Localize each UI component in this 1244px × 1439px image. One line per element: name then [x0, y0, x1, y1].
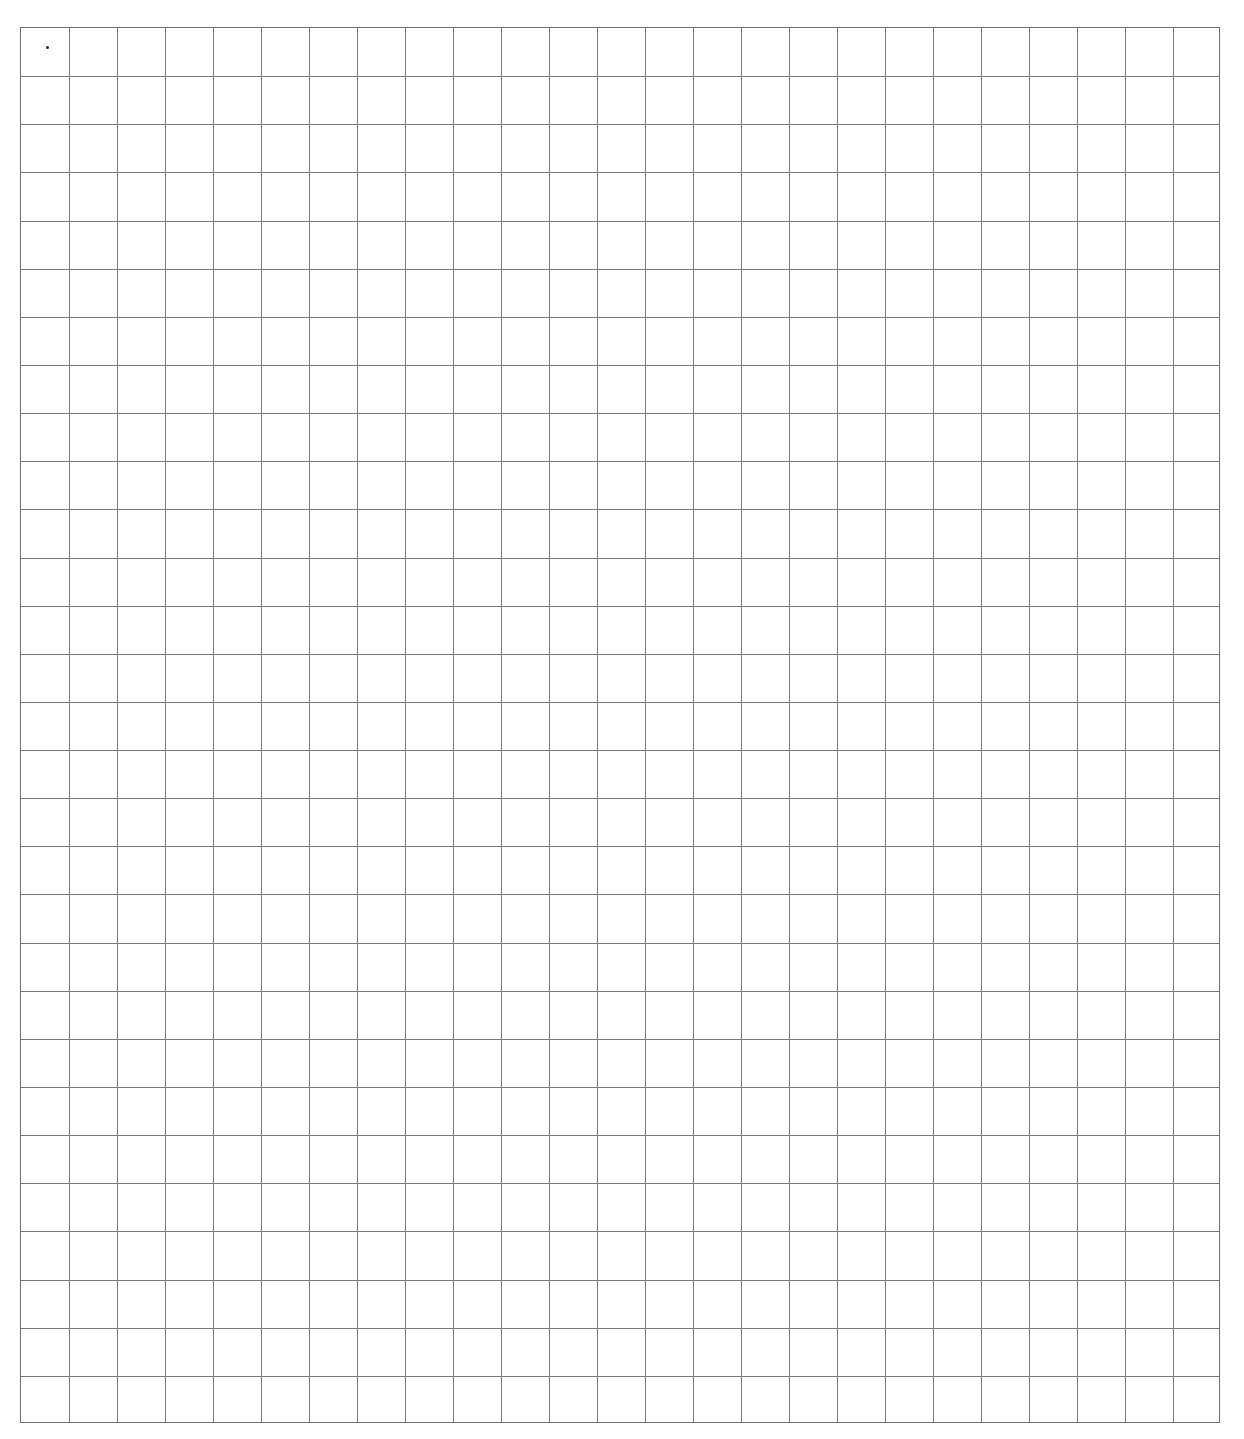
- grid-horizontal-line: [21, 221, 1219, 222]
- grid-vertical-line: [981, 28, 982, 1422]
- grid-vertical-line: [741, 28, 742, 1422]
- grid-horizontal-line: [21, 702, 1219, 703]
- grid-vertical-line: [837, 28, 838, 1422]
- grid-vertical-line: [165, 28, 166, 1422]
- grid-vertical-line: [1029, 28, 1030, 1422]
- grid-horizontal-line: [21, 1376, 1219, 1377]
- grid-horizontal-line: [21, 317, 1219, 318]
- grid-horizontal-line: [21, 606, 1219, 607]
- grid-vertical-line: [549, 28, 550, 1422]
- grid-paper: [20, 27, 1220, 1423]
- grid-vertical-line: [213, 28, 214, 1422]
- grid-vertical-line: [405, 28, 406, 1422]
- grid-vertical-line: [1125, 28, 1126, 1422]
- grid-horizontal-line: [21, 798, 1219, 799]
- grid-vertical-line: [117, 28, 118, 1422]
- grid-vertical-line: [645, 28, 646, 1422]
- grid-horizontal-line: [21, 750, 1219, 751]
- grid-horizontal-line: [21, 654, 1219, 655]
- grid-horizontal-line: [21, 1087, 1219, 1088]
- grid-horizontal-line: [21, 124, 1219, 125]
- grid-vertical-line: [69, 28, 70, 1422]
- grid-horizontal-line: [21, 846, 1219, 847]
- grid-horizontal-line: [21, 509, 1219, 510]
- grid-horizontal-line: [21, 269, 1219, 270]
- grid-vertical-line: [693, 28, 694, 1422]
- grid-horizontal-line: [21, 1328, 1219, 1329]
- grid-horizontal-line: [21, 76, 1219, 77]
- grid-horizontal-line: [21, 943, 1219, 944]
- grid-horizontal-line: [21, 413, 1219, 414]
- grid-vertical-line: [1173, 28, 1174, 1422]
- grid-vertical-line: [309, 28, 310, 1422]
- grid-vertical-line: [789, 28, 790, 1422]
- grid-vertical-line: [261, 28, 262, 1422]
- grid-vertical-line: [501, 28, 502, 1422]
- grid-vertical-line: [885, 28, 886, 1422]
- grid-horizontal-line: [21, 894, 1219, 895]
- grid-vertical-line: [597, 28, 598, 1422]
- grid-vertical-line: [1077, 28, 1078, 1422]
- grid-horizontal-line: [21, 1231, 1219, 1232]
- grid-vertical-line: [933, 28, 934, 1422]
- grid-horizontal-line: [21, 558, 1219, 559]
- grid-horizontal-line: [21, 991, 1219, 992]
- grid-vertical-line: [453, 28, 454, 1422]
- grid-horizontal-line: [21, 1039, 1219, 1040]
- grid-horizontal-line: [21, 1280, 1219, 1281]
- grid-vertical-line: [357, 28, 358, 1422]
- grid-horizontal-line: [21, 1135, 1219, 1136]
- dot-mark: [46, 46, 49, 49]
- grid-horizontal-line: [21, 172, 1219, 173]
- grid-horizontal-line: [21, 365, 1219, 366]
- grid-horizontal-line: [21, 461, 1219, 462]
- grid-horizontal-line: [21, 1183, 1219, 1184]
